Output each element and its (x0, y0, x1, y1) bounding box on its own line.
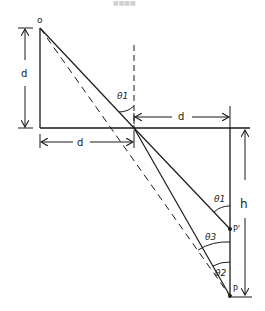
origin-label: o (37, 15, 43, 25)
p-label: P (233, 285, 238, 294)
theta1-bottom-label: θ1 (214, 194, 225, 204)
theta2-label: θ2 (215, 268, 227, 278)
h-label: h (240, 197, 248, 211)
theta2-arc (213, 262, 230, 266)
incident-ray (40, 28, 134, 128)
refracted-ray-to-p-prime (134, 128, 230, 229)
theta1-bottom-arc (214, 206, 230, 212)
dashed-line-o-to-p (40, 28, 230, 296)
p-prime-point (228, 227, 232, 231)
theta3-label: θ3 (205, 232, 217, 242)
theta1-top-label: θ1 (117, 91, 128, 101)
p-point (228, 294, 232, 298)
refraction-diagram: ■■■■ o d θ1 d d h θ1 θ3 θ2 (0, 0, 265, 311)
theta1-top-arc (119, 106, 134, 112)
d-vertical-label: d (21, 68, 27, 79)
header-text: ■■■■ (113, 0, 136, 6)
d-top-label: d (178, 111, 184, 122)
p-prime-label: P' (233, 225, 240, 234)
d-bottom-label: d (77, 137, 83, 148)
